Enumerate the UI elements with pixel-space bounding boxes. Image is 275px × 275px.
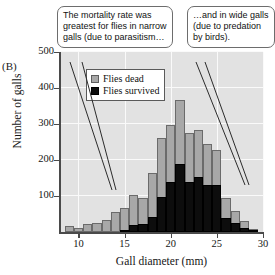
callout-wide-galls: …and in wide galls (due to predation by … [187, 6, 275, 48]
callout-narrow-galls: The mortality rate was greatest for flie… [57, 6, 173, 48]
figure-panel-b: (B) Number of galls 100200300400500 1015… [0, 0, 275, 275]
